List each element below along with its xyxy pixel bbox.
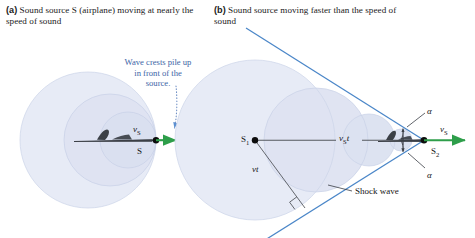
panel-b-label: (b) [214,5,226,15]
panel-b-wave-distance-label: vt [252,164,259,174]
panel-b-source-end-label: S2 [431,146,439,158]
panel-b-shock-wave-label: Shock wave [355,186,399,196]
panel-a-annotation: Wave crests pile up in front of the sour… [108,57,208,89]
panel-a-annotation-leader [175,86,177,128]
panel-a-caption: (a) Sound source S (airplane) moving at … [6,5,211,28]
panel-b-angle-label-bottom: α [427,170,432,180]
annotation-line-3: source. [108,78,208,89]
panel-b-alpha-leader-bottom [408,153,425,168]
panel-b-source-start-point [252,137,258,143]
figure-container: (a) Sound source S (airplane) moving at … [0,0,475,238]
panel-b-source-distance-label: vSt [339,133,349,145]
panel-a-velocity-label: vS [133,124,141,136]
panel-b-angle-label-top: α [427,106,432,116]
panel-b-alpha-leader-top [407,113,425,127]
annotation-line-1: Wave crests pile up [108,57,208,68]
figure-graphics [0,0,475,238]
panel-a-label: (a) [6,5,17,15]
panel-a-source-label: S [137,146,142,156]
panel-b-source-start-label: S1 [241,134,249,146]
panel-b-caption: (b) Sound source moving faster than the … [214,5,414,28]
panel-b-velocity-label: vS [440,124,448,136]
annotation-line-2: in front of the [108,68,208,79]
panel-b-caption-line1: Sound source moving faster [228,5,331,15]
panel-a-caption-line1: Sound source S (airplane) moving [20,5,146,15]
